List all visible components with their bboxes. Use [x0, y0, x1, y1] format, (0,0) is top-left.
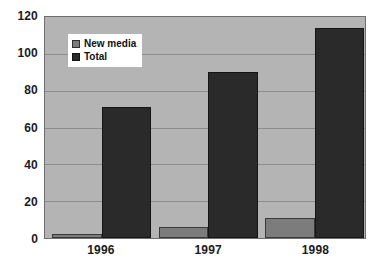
bar-total-1998 — [315, 28, 365, 238]
bar-new-media-1998 — [265, 218, 315, 238]
legend-label-new-media: New media — [84, 39, 136, 49]
legend-swatch-new-media-icon — [72, 40, 80, 48]
y-axis-tick-80: 80 — [24, 84, 38, 96]
legend-label-total: Total — [84, 52, 107, 62]
bar-total-1997 — [208, 72, 258, 238]
legend-item-total: Total — [72, 50, 136, 63]
y-axis-tick-100: 100 — [17, 47, 38, 59]
bar-new-media-1997 — [159, 227, 209, 238]
y-axis-tick-0: 0 — [31, 233, 38, 245]
chart-legend: New media Total — [68, 34, 142, 67]
y-axis-tick-20: 20 — [24, 196, 38, 208]
y-axis-tick-40: 40 — [24, 159, 38, 171]
y-axis-tick-120: 120 — [17, 10, 38, 22]
x-axis: 1996 1997 1998 — [44, 241, 366, 265]
y-axis-tick-60: 60 — [24, 122, 38, 134]
y-axis: 120 100 80 60 40 20 0 — [0, 16, 42, 239]
legend-swatch-total-icon — [72, 53, 80, 61]
x-axis-tick-1996: 1996 — [87, 243, 115, 257]
bar-total-1996 — [102, 107, 152, 238]
bar-chart-figure: 120 100 80 60 40 20 0 New m — [0, 0, 385, 275]
bar-new-media-1996 — [52, 234, 102, 238]
x-axis-tick-1997: 1997 — [194, 243, 222, 257]
legend-item-new-media: New media — [72, 37, 136, 50]
x-axis-tick-1998: 1998 — [302, 243, 330, 257]
